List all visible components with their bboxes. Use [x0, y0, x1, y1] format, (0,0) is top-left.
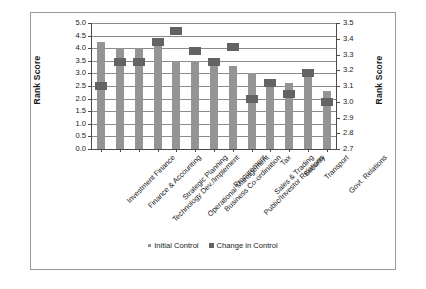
- bar-initial-control: [154, 39, 162, 149]
- marker-change-in-control: [189, 47, 201, 55]
- marker-change-in-control: [227, 43, 239, 51]
- plot-area: 0.00.51.01.52.02.53.03.54.04.55.0 2.72.8…: [92, 23, 336, 149]
- marker-change-in-control: [170, 27, 182, 35]
- marker-change-in-control: [208, 58, 220, 66]
- y-tick-mark-right: [336, 55, 340, 56]
- y-tick-label-left: 1.5: [64, 107, 86, 115]
- y-tick-label-left: 1.0: [64, 120, 86, 128]
- y-tick-label-left: 3.5: [64, 57, 86, 65]
- y-tick-mark-right: [336, 70, 340, 71]
- y-tick-mark-right: [336, 118, 340, 119]
- y-tick-label-right: 2.9: [343, 114, 365, 122]
- marker-change-in-control: [246, 95, 258, 103]
- y-tick-mark-right: [336, 23, 340, 24]
- legend-swatch-icon: [209, 243, 214, 248]
- y-tick-mark-right: [336, 149, 340, 150]
- y-tick-label-left: 2.0: [64, 95, 86, 103]
- y-tick-mark-right: [336, 39, 340, 40]
- bar-initial-control: [191, 61, 199, 149]
- bar-group: [266, 23, 274, 149]
- bar-series-container: [92, 23, 336, 149]
- y-tick-label-left: 4.0: [64, 44, 86, 52]
- chart-figure: Rank Score Rank Score 0.00.51.01.52.02.5…: [30, 12, 396, 270]
- y-tick-label-left: 4.5: [64, 32, 86, 40]
- y-tick-label-right: 3.3: [343, 51, 365, 59]
- legend-swatch-icon: [148, 244, 151, 247]
- y-tick-label-right: 3.5: [343, 19, 365, 27]
- bar-initial-control: [97, 42, 105, 149]
- y-tick-label-right: 3.4: [343, 35, 365, 43]
- bar-group: [154, 23, 162, 149]
- y-tick-label-left: 5.0: [64, 19, 86, 27]
- marker-change-in-control: [264, 79, 276, 87]
- bar-group: [248, 23, 256, 149]
- marker-change-in-control: [133, 58, 145, 66]
- marker-change-in-control: [114, 58, 126, 66]
- legend-label: Change in Control: [217, 241, 278, 250]
- bar-initial-control: [210, 62, 218, 149]
- bar-initial-control: [266, 80, 274, 149]
- legend-item: Change in Control: [209, 241, 278, 250]
- y-tick-label-right: 2.7: [343, 145, 365, 153]
- bar-group: [172, 23, 180, 149]
- bar-initial-control: [248, 73, 256, 149]
- marker-change-in-control: [95, 82, 107, 90]
- y-tick-mark-left: [88, 149, 92, 150]
- bar-group: [97, 23, 105, 149]
- bar-initial-control: [229, 66, 237, 149]
- y-tick-label-right: 3.0: [343, 98, 365, 106]
- legend-label: Initial Control: [154, 241, 198, 250]
- bar-group: [323, 23, 331, 149]
- y-tick-label-right: 3.1: [343, 82, 365, 90]
- legend-item: Initial Control: [148, 241, 198, 250]
- x-axis-labels: Investment FinanceFinance & AccountingTe…: [92, 151, 336, 235]
- y-tick-mark-right: [336, 86, 340, 87]
- bar-initial-control: [172, 61, 180, 149]
- bar-group: [116, 23, 124, 149]
- y-axis-title-left: Rank Score: [32, 56, 42, 105]
- x-axis-label: Govt. Relations: [346, 153, 388, 195]
- y-tick-label-right: 2.8: [343, 129, 365, 137]
- bar-group: [304, 23, 312, 149]
- y-tick-label-left: 2.5: [64, 82, 86, 90]
- y-tick-mark-right: [336, 133, 340, 134]
- marker-change-in-control: [321, 98, 333, 106]
- marker-change-in-control: [302, 69, 314, 77]
- bar-group: [191, 23, 199, 149]
- y-tick-label-right: 3.2: [343, 66, 365, 74]
- y-tick-mark-right: [336, 102, 340, 103]
- bar-initial-control: [304, 77, 312, 149]
- y-tick-label-left: 0.5: [64, 132, 86, 140]
- bar-group: [229, 23, 237, 149]
- marker-change-in-control: [152, 38, 164, 46]
- bar-group: [135, 23, 143, 149]
- bar-group: [210, 23, 218, 149]
- y-tick-label-left: 3.0: [64, 69, 86, 77]
- y-tick-label-left: 0.0: [64, 145, 86, 153]
- marker-change-in-control: [283, 90, 295, 98]
- x-axis-label: Tax: [279, 153, 293, 167]
- y-axis-title-right: Rank Score: [374, 56, 384, 105]
- chart-legend: Initial ControlChange in Control: [31, 241, 395, 250]
- bar-group: [285, 23, 293, 149]
